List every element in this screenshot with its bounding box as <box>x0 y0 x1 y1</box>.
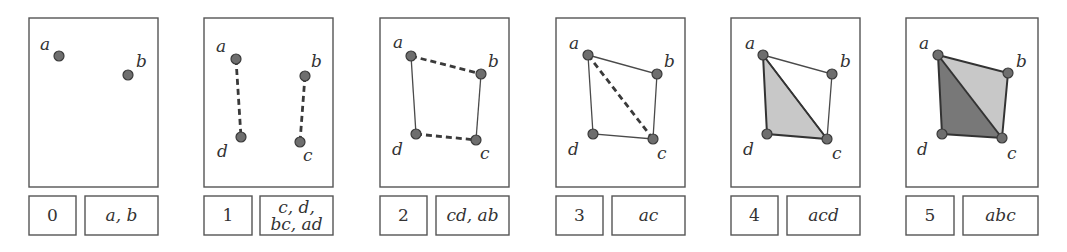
vertex-a <box>231 54 241 64</box>
step-number: 5 <box>925 205 936 225</box>
vertex-label-a: a <box>919 33 929 53</box>
vertex-d <box>411 129 421 139</box>
vertex-d <box>762 129 772 139</box>
simplex-caption: abc <box>985 205 1016 225</box>
step-number: 3 <box>574 205 585 225</box>
panel-0: a b 0 a, b <box>29 18 158 235</box>
panel-5: a b c d 5 abc <box>906 18 1038 235</box>
vertex-label-a: a <box>569 33 579 53</box>
vertex-label-a: a <box>393 32 403 52</box>
vertex-b <box>827 69 837 79</box>
vertex-b <box>300 71 310 81</box>
vertex-label-c: c <box>657 143 667 163</box>
vertex-a <box>933 50 943 60</box>
step-number: 1 <box>223 205 234 225</box>
vertex-b <box>123 70 133 80</box>
vertex-c <box>822 134 832 144</box>
vertex-label-c: c <box>303 145 313 165</box>
vertex-b <box>476 69 486 79</box>
vertex-d <box>236 132 246 142</box>
vertex-label-d: d <box>217 141 228 161</box>
panel-3: a b c d 3 ac <box>556 18 685 235</box>
vertex-label-d: d <box>917 139 928 159</box>
vertex-c <box>997 133 1007 143</box>
step-number: 0 <box>47 205 58 225</box>
vertex-b <box>1003 68 1013 78</box>
vertex-d <box>588 129 598 139</box>
step-number: 4 <box>749 205 760 225</box>
vertex-label-b: b <box>664 51 675 71</box>
simplex-caption: a, b <box>106 205 138 225</box>
panel-1: a b c d 1 c, d, bc, ad <box>204 18 333 235</box>
vertex-label-c: c <box>832 143 842 163</box>
vertex-label-b: b <box>311 51 322 71</box>
vertex-label-a: a <box>40 34 50 54</box>
vertex-label-d: d <box>392 139 403 159</box>
vertex-a <box>406 51 416 61</box>
vertex-a <box>758 50 768 60</box>
panel-4: a b c d 4 acd <box>731 18 860 235</box>
vertex-label-a: a <box>216 36 226 56</box>
step-number: 2 <box>398 205 409 225</box>
simplex-caption-line-2: bc, ad <box>270 214 322 234</box>
vertex-label-c: c <box>1007 143 1017 163</box>
vertex-label-a: a <box>745 33 755 53</box>
vertex-b <box>652 69 662 79</box>
vertex-label-d: d <box>568 139 579 159</box>
vertex-d <box>937 129 947 139</box>
vertex-label-b: b <box>1016 51 1027 71</box>
simplex-caption: acd <box>808 205 839 225</box>
simplex-caption: ac <box>639 205 659 225</box>
vertex-a <box>54 51 64 61</box>
vertex-label-b: b <box>136 51 147 71</box>
vertex-label-b: b <box>488 51 499 71</box>
vertex-label-c: c <box>480 143 490 163</box>
panel-2: a b c d 2 cd, ab <box>380 18 509 235</box>
vertex-label-b: b <box>840 51 851 71</box>
vertex-a <box>583 50 593 60</box>
vertex-label-d: d <box>743 139 754 159</box>
simplex-caption: cd, ab <box>446 205 498 225</box>
